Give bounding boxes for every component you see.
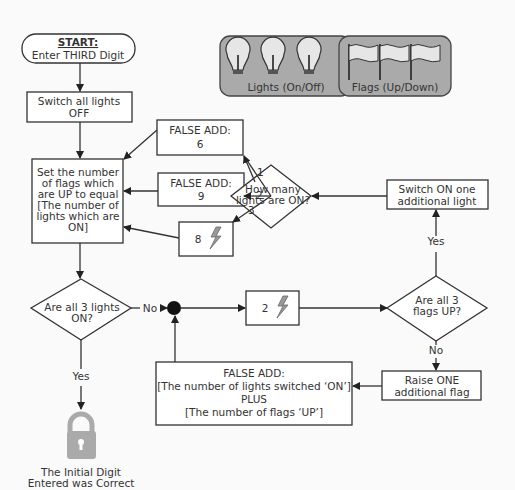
svg-text:8: 8 bbox=[195, 233, 202, 245]
svg-text:ON?: ON? bbox=[71, 312, 93, 324]
lights-legend: Lights (On/Off) bbox=[220, 36, 351, 96]
svg-text:PLUS: PLUS bbox=[241, 393, 267, 405]
false-add-9-box: FALSE ADD: 9 bbox=[158, 173, 244, 206]
switch-off-box: Switch all lights OFF bbox=[27, 92, 132, 122]
flags-legend: Flags (Up/Down) bbox=[339, 36, 451, 96]
lights-legend-label: Lights (On/Off) bbox=[247, 81, 324, 93]
svg-text:Raise ONE: Raise ONE bbox=[405, 374, 459, 386]
branch-label-1: 1 bbox=[257, 166, 264, 178]
svg-text:2: 2 bbox=[262, 302, 269, 314]
set-flags-box: Set the number of flags which are UP to … bbox=[32, 159, 123, 243]
svg-text:[The number of lights switched: [The number of lights switched ‘ON’] bbox=[157, 380, 351, 392]
yes-label: Yes bbox=[72, 370, 90, 382]
flags-legend-label: Flags (Up/Down) bbox=[352, 81, 439, 93]
svg-text:Switch all lights: Switch all lights bbox=[38, 95, 120, 107]
box-2: 2 bbox=[246, 291, 299, 325]
start-title: START: bbox=[58, 36, 98, 48]
svg-text:additional flag: additional flag bbox=[394, 386, 469, 398]
all-lights-on-decision: Are all 3 lights ON? bbox=[31, 279, 131, 340]
box-8: 8 bbox=[179, 222, 233, 256]
end-text-2: Entered was Correct bbox=[28, 477, 135, 489]
raise-flag-box: Raise ONE additional flag bbox=[382, 371, 481, 400]
svg-text:FALSE ADD:: FALSE ADD: bbox=[169, 124, 231, 136]
branch-label-3: 3 bbox=[248, 204, 255, 216]
svg-text:6: 6 bbox=[197, 138, 204, 150]
no-label: No bbox=[143, 302, 157, 314]
svg-text:additional light: additional light bbox=[398, 195, 477, 207]
false-add-6-box: FALSE ADD: 6 bbox=[157, 120, 243, 155]
flags-yes-label: Yes bbox=[427, 235, 445, 247]
junction-dot bbox=[167, 301, 181, 315]
svg-text:FALSE ADD:: FALSE ADD: bbox=[223, 367, 285, 379]
padlock-icon bbox=[67, 414, 96, 459]
start-node: START: Enter THIRD Digit bbox=[22, 34, 135, 63]
svg-text:FALSE ADD:: FALSE ADD: bbox=[170, 177, 232, 189]
svg-text:[The number of flags ‘UP’]: [The number of flags ‘UP’] bbox=[185, 406, 323, 418]
false-add-sum-box: FALSE ADD: [The number of lights switche… bbox=[156, 362, 352, 425]
svg-text:ON]: ON] bbox=[68, 221, 88, 233]
switch-on-box: Switch ON one additional light bbox=[387, 180, 488, 209]
svg-text:flags UP?: flags UP? bbox=[413, 305, 461, 317]
svg-text:Switch ON one: Switch ON one bbox=[398, 183, 475, 195]
svg-text:OFF: OFF bbox=[69, 107, 89, 119]
svg-text:9: 9 bbox=[198, 190, 205, 202]
start-text: Enter THIRD Digit bbox=[32, 49, 124, 61]
all-flags-up-decision: Are all 3 flags UP? bbox=[387, 276, 487, 341]
branch-label-2: 2 bbox=[256, 189, 263, 201]
flags-no-label: No bbox=[429, 344, 443, 356]
